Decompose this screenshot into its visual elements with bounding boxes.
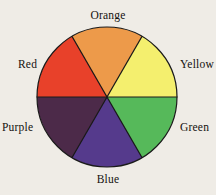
slice-label-blue: Blue [97,174,120,186]
slice-label-red: Red [18,59,37,71]
slice-label-purple: Purple [2,122,33,134]
slice-label-yellow: Yellow [180,59,214,71]
color-wheel-chart [0,0,216,195]
wheel-disc [0,0,216,195]
color-wheel-figure: Orange Yellow Green Blue Purple Red [0,0,216,195]
slice-label-orange: Orange [90,10,125,22]
slice-label-green: Green [180,122,209,134]
